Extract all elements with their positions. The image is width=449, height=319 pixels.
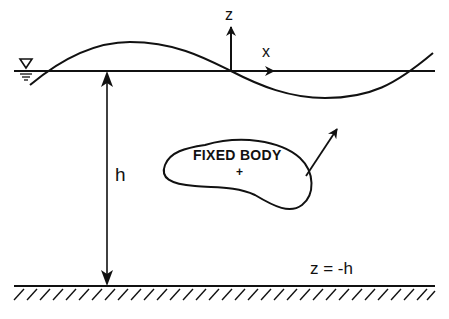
seabed-hatching xyxy=(14,289,435,300)
body-label: FIXED BODY xyxy=(193,148,282,162)
depth-label: h xyxy=(115,165,126,184)
x-axis-label: x xyxy=(262,44,270,60)
water-level-icon xyxy=(20,59,32,80)
body-origin-marker: + xyxy=(236,166,243,178)
seabed-condition-label: z = -h xyxy=(310,260,353,277)
normal-arrow xyxy=(306,129,337,176)
wave-diagram: z x h FIXED BODY + z = -h xyxy=(0,0,449,319)
z-axis-label: z xyxy=(225,7,233,23)
